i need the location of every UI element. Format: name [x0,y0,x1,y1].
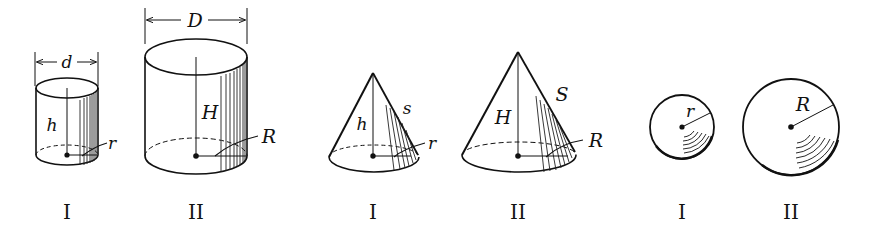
similar-solids-diagram: d h r I D [0,0,871,229]
height-label-H: H [494,106,512,128]
radius-label-R: R [588,129,603,151]
figure-label-cone-II: II [510,200,526,224]
radius-label-R: R [261,125,276,147]
diameter-label-d: d [62,52,73,72]
cone-small: h s r I [329,73,437,224]
slant-label-S: S [555,83,568,105]
radius-label-r: r [108,133,117,153]
figure-label-sphere-I: I [678,200,686,224]
figure-label-cylinder-I: I [63,200,71,224]
radius-label-R: R [795,93,810,115]
sphere-large: R II [743,79,839,224]
cylinder-large: D H R II [145,8,276,224]
radius-label-r: r [428,133,437,153]
figure-label-sphere-II: II [783,200,799,224]
slant-label-s: s [403,98,412,118]
diameter-label-D: D [186,9,202,31]
height-label-H: H [201,101,219,123]
cylinder-small: d h r I [35,52,117,224]
cone-large: H S R II [462,52,603,224]
sphere-small: r I [650,95,714,224]
height-label-h: h [357,114,368,134]
radius-label-r: r [686,101,695,121]
height-label-h: h [47,115,58,135]
figure-label-cone-I: I [369,200,377,224]
figure-label-cylinder-II: II [188,200,204,224]
